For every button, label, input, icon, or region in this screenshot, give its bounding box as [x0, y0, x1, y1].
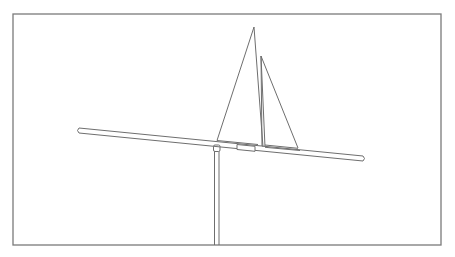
horizontal-rod: [78, 128, 365, 161]
support-pole: [215, 151, 220, 245]
mainsail: [217, 27, 263, 147]
jib-sail: [261, 56, 300, 151]
figure-caption: [14, 250, 214, 257]
sailboat-weathervane-figure: [0, 0, 455, 257]
